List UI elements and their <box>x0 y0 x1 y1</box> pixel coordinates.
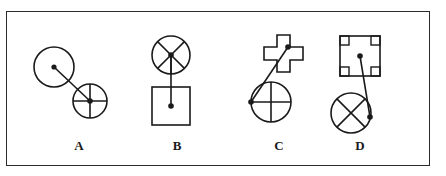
figure-a-cross-circle-dot <box>87 98 93 104</box>
figure-a-plain-circle-dot <box>51 64 56 69</box>
figure-label-c: C <box>259 138 299 154</box>
figure-b <box>152 36 190 125</box>
figure-b-spoked-circle-dot <box>168 52 174 58</box>
figure-b-spoke-upper-right <box>171 42 184 55</box>
figure-d-corner-square-top-left <box>340 36 349 45</box>
figure-c-connector <box>251 47 288 102</box>
figure-c-circle-edge-dot <box>248 99 254 105</box>
figure-d-connector <box>360 56 370 117</box>
figure-c <box>248 35 303 122</box>
figure-label-b: B <box>157 138 197 154</box>
figure-label-a: A <box>59 138 99 154</box>
figure-b-spoke-lower-right <box>171 55 184 68</box>
figure-panel: A B C D <box>6 11 430 166</box>
figure-a <box>34 47 107 118</box>
figure-a-connector <box>54 67 90 101</box>
figure-d-corner-square-top-right <box>371 36 380 45</box>
figure-d-corner-square-bottom-left <box>340 67 349 76</box>
figure-label-d: D <box>340 138 380 154</box>
figure-page: A B C D <box>0 0 446 176</box>
figure-d-corner-square-bottom-right <box>371 67 380 76</box>
figure-d-circle-edge-dot <box>367 114 373 120</box>
figure-d <box>331 36 380 133</box>
figure-b-spoke-lower-left <box>158 55 171 68</box>
figure-c-plus-dot <box>285 44 291 50</box>
figure-d-square-dot <box>357 53 363 59</box>
figure-b-square-dot <box>168 103 174 109</box>
figure-b-spoke-upper-left <box>158 42 171 55</box>
